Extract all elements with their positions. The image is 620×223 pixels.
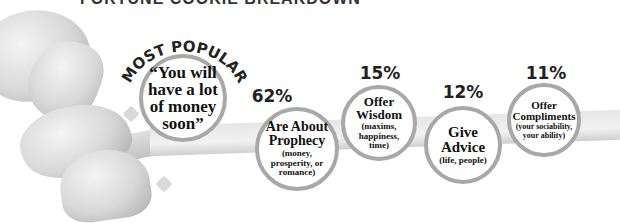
category-circle-compliments: Offer Compliments (your sociability, you… bbox=[507, 83, 581, 157]
percent-label-compliments: 11% bbox=[526, 63, 567, 83]
most-popular-quote: “You will have a lot of money soon” bbox=[148, 64, 218, 132]
heart-crumb-icon bbox=[156, 176, 173, 193]
category-title: Offer Wisdom bbox=[349, 95, 409, 121]
percent-label-prophecy: 62% bbox=[252, 86, 293, 106]
category-title: Offer Compliments bbox=[511, 100, 577, 122]
category-title: Give Advice bbox=[433, 125, 493, 155]
category-title: Are About Prophecy bbox=[264, 120, 330, 148]
category-circle-advice: Give Advice (life, people) bbox=[424, 106, 502, 184]
chart-title: FORTUNE COOKIE BREAKDOWN bbox=[80, 0, 361, 8]
category-subtitle: (maxims, happiness, time) bbox=[352, 122, 406, 150]
category-circle-wisdom: Offer Wisdom (maxims, happiness, time) bbox=[341, 85, 417, 161]
percent-label-advice: 12% bbox=[443, 82, 484, 102]
category-subtitle: (money, prosperity, or romance) bbox=[268, 149, 326, 177]
category-circle-prophecy: Are About Prophecy (money, prosperity, o… bbox=[255, 107, 339, 191]
category-subtitle: (life, people) bbox=[432, 156, 494, 165]
most-popular-circle: “You will have a lot of money soon” bbox=[139, 54, 227, 142]
category-subtitle: (your sociability, your ability) bbox=[513, 123, 575, 140]
percent-label-wisdom: 15% bbox=[360, 63, 401, 83]
